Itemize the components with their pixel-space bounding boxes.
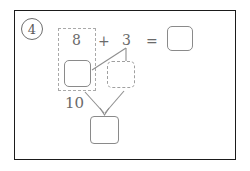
worksheet-page: 4 8 + 3 = 10: [0, 0, 250, 171]
arrowhead-total: [100, 108, 109, 115]
connector-layer: [0, 0, 250, 171]
split-line-to-left-part: [92, 48, 126, 70]
